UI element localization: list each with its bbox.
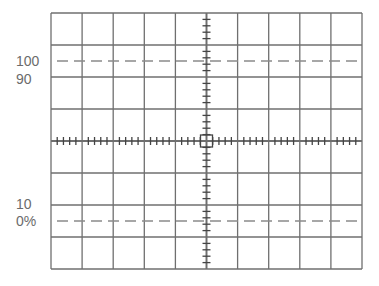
center-axis-ticks (51, 13, 362, 269)
oscilloscope-graticule (0, 0, 379, 286)
label-100: 100 (16, 54, 39, 68)
label-90: 90 (16, 72, 32, 86)
label-0-percent: 0% (16, 214, 36, 228)
label-10: 10 (16, 197, 32, 211)
